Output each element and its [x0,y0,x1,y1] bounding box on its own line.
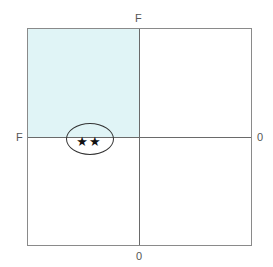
axis-label-right: 0 [257,132,263,143]
axis-label-left: F [16,132,23,143]
quadrant-top-left [28,29,140,138]
quadrant-grid: ★★ [27,28,252,246]
star-icon: ★★ [76,134,101,149]
quadrant-top-right [140,29,251,138]
quadrant-bottom-right [140,138,251,245]
marker-ellipse: ★★ [66,123,114,155]
axis-label-top: F [135,13,142,24]
axis-label-bottom: 0 [136,251,142,262]
horizontal-axis-line [28,137,251,138]
quadrant-diagram: ★★ F F 0 0 [0,0,273,267]
